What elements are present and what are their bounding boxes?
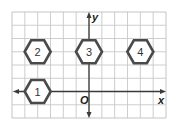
y-axis-label: y [91,11,99,23]
hexagon-1: 1 [25,80,51,103]
hexagon-3: 3 [76,40,102,63]
hexagon-label: 1 [35,86,41,98]
y-axis-arrow-up-icon [87,12,92,18]
hexagon-4: 4 [127,40,153,63]
hexagon-2: 2 [25,40,51,63]
hexagon-label: 4 [137,46,143,58]
origin-label: O [80,94,89,106]
x-axis-arrow-left-icon [13,89,19,94]
y-axis-arrow-down-icon [87,112,92,118]
hexagon-label: 3 [86,46,92,58]
coordinate-grid-diagram: x y O 1 2 3 4 [0,0,179,126]
hexagon-label: 2 [35,46,41,58]
x-axis-label: x [157,94,165,106]
